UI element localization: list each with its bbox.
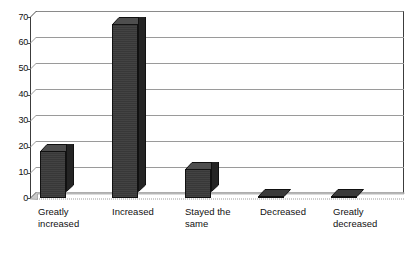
bar-decreased[interactable] <box>258 196 284 198</box>
bar-front-face <box>258 196 284 198</box>
bar-chart: 70 60 50 40 30 20 10 0 <box>0 0 416 255</box>
bar-greatly-decreased[interactable] <box>331 196 357 198</box>
bar-side-face <box>138 17 145 191</box>
bar-top-face <box>258 189 291 196</box>
bar-greatly-increased[interactable] <box>40 151 66 198</box>
x-axis-labels: Greatly increased Increased Stayed the s… <box>30 206 410 252</box>
x-label-greatly-decreased: Greatly decreased <box>333 206 403 229</box>
x-label-increased: Increased <box>112 206 174 218</box>
bar-increased[interactable] <box>112 24 138 198</box>
bar-stayed-the-same[interactable] <box>185 169 211 198</box>
bar-front-face <box>40 151 66 198</box>
bar-front-face <box>112 24 138 198</box>
bar-side-face <box>211 162 218 191</box>
x-label-stayed-the-same: Stayed the same <box>185 206 251 229</box>
bar-front-face <box>185 169 211 198</box>
bar-top-face <box>331 189 364 196</box>
x-label-greatly-increased: Greatly increased <box>38 206 100 229</box>
bar-front-face <box>331 196 357 198</box>
bar-side-face <box>66 144 73 191</box>
x-label-decreased: Decreased <box>260 206 326 218</box>
